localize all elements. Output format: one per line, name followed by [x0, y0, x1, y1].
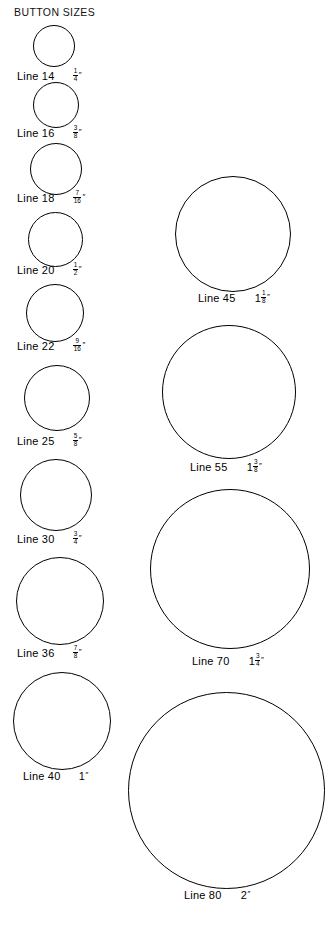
button-circle — [20, 459, 92, 531]
button-circle — [28, 212, 83, 267]
fraction-denominator: 8 — [253, 467, 258, 474]
button-sizes-chart: BUTTON SIZES Line 1414″Line 1638″Line 18… — [0, 0, 335, 928]
diameter-label: 58″ — [73, 433, 82, 447]
size-label: Line 45118″ — [198, 290, 270, 304]
line-number-label: Line 40 — [23, 771, 61, 782]
line-number-label: Line 30 — [17, 534, 55, 545]
size-label: Line 22916″ — [17, 338, 85, 352]
inch-symbol: ″ — [85, 771, 88, 779]
size-label: Line 2012″ — [17, 262, 82, 276]
line-number-label: Line 70 — [192, 656, 230, 667]
size-label: Line 70134″ — [192, 653, 264, 667]
fraction-denominator: 8 — [73, 653, 78, 660]
line-number-label: Line 14 — [17, 71, 55, 82]
diameter-label: 134″ — [249, 653, 264, 667]
size-label: Line 1414″ — [17, 68, 82, 82]
whole-number: 1 — [255, 293, 261, 304]
button-circle — [128, 692, 325, 889]
line-number-label: Line 55 — [190, 462, 228, 473]
line-number-label: Line 36 — [17, 648, 55, 659]
button-circle — [175, 176, 291, 292]
fraction: 916 — [73, 338, 81, 352]
fraction: 38 — [253, 459, 258, 473]
inch-symbol: ″ — [79, 71, 82, 79]
fraction: 34 — [255, 653, 260, 667]
fraction: 38 — [73, 125, 78, 139]
button-circle — [33, 82, 79, 128]
inch-symbol: ″ — [79, 534, 82, 542]
page-title: BUTTON SIZES — [14, 6, 95, 18]
size-label: Line 3678″ — [17, 645, 82, 659]
diameter-label: 12″ — [73, 262, 82, 276]
button-circle — [150, 489, 310, 649]
button-circle — [26, 284, 84, 342]
fraction-denominator: 8 — [261, 298, 266, 305]
line-number-label: Line 18 — [17, 193, 55, 204]
diameter-label: 34″ — [73, 531, 82, 545]
diameter-label: 138″ — [247, 459, 262, 473]
inch-symbol: ″ — [267, 293, 270, 301]
inch-symbol: ″ — [261, 656, 264, 664]
whole-number: 1 — [79, 771, 85, 782]
whole-number: 1 — [247, 462, 253, 473]
button-circle — [30, 143, 82, 195]
fraction: 716 — [73, 190, 81, 204]
button-circle — [16, 557, 104, 645]
fraction-denominator: 4 — [73, 539, 78, 546]
button-circle — [162, 325, 296, 459]
inch-symbol: ″ — [79, 648, 82, 656]
fraction-denominator: 16 — [73, 198, 81, 205]
size-label: Line 401″ — [23, 771, 88, 782]
diameter-label: 1″ — [79, 771, 88, 782]
diameter-label: 118″ — [255, 290, 270, 304]
diameter-label: 14″ — [73, 68, 82, 82]
fraction-denominator: 4 — [73, 76, 78, 83]
inch-symbol: ″ — [79, 436, 82, 444]
fraction: 34 — [73, 531, 78, 545]
size-label: Line 55138″ — [190, 459, 262, 473]
button-circle — [33, 25, 75, 67]
diameter-label: 78″ — [73, 645, 82, 659]
button-circle — [24, 365, 90, 431]
inch-symbol: ″ — [82, 193, 85, 201]
diameter-label: 38″ — [73, 125, 82, 139]
size-label: Line 802″ — [184, 890, 250, 901]
fraction-denominator: 16 — [73, 346, 81, 353]
inch-symbol: ″ — [79, 128, 82, 136]
size-label: Line 3034″ — [17, 531, 82, 545]
line-number-label: Line 80 — [184, 890, 222, 901]
fraction: 14 — [73, 68, 78, 82]
diameter-label: 916″ — [73, 338, 85, 352]
fraction-denominator: 4 — [255, 661, 260, 668]
inch-symbol: ″ — [259, 462, 262, 470]
size-label: Line 2558″ — [17, 433, 82, 447]
inch-symbol: ″ — [247, 890, 250, 898]
button-circle — [13, 672, 111, 770]
diameter-label: 716″ — [73, 190, 85, 204]
line-number-label: Line 20 — [17, 265, 55, 276]
fraction: 12 — [73, 262, 78, 276]
diameter-label: 2″ — [241, 890, 250, 901]
whole-number: 1 — [249, 656, 255, 667]
fraction-denominator: 8 — [73, 441, 78, 448]
fraction: 18 — [261, 290, 266, 304]
line-number-label: Line 45 — [198, 293, 236, 304]
inch-symbol: ″ — [82, 341, 85, 349]
size-label: Line 1638″ — [17, 125, 82, 139]
fraction-denominator: 8 — [73, 133, 78, 140]
whole-number: 2 — [241, 890, 247, 901]
inch-symbol: ″ — [79, 265, 82, 273]
line-number-label: Line 22 — [17, 341, 55, 352]
line-number-label: Line 16 — [17, 128, 55, 139]
fraction: 58 — [73, 433, 78, 447]
fraction: 78 — [73, 645, 78, 659]
size-label: Line 18716″ — [17, 190, 85, 204]
fraction-denominator: 2 — [73, 270, 78, 277]
line-number-label: Line 25 — [17, 436, 55, 447]
